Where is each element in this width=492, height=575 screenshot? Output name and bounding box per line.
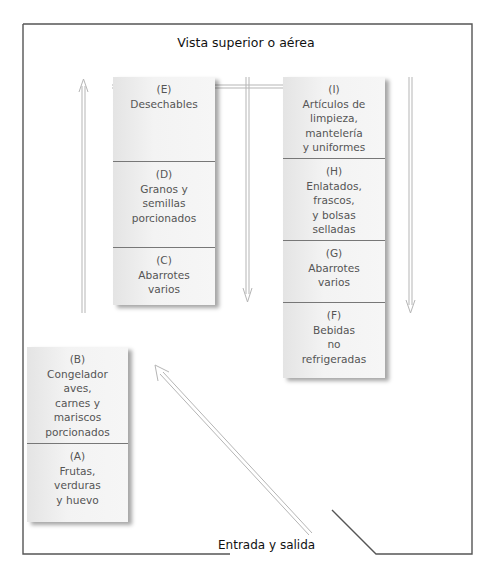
section-letter: (I) — [328, 82, 339, 97]
section-label: Abarrotes — [308, 261, 359, 276]
section-label: Granos y — [140, 182, 187, 197]
section-f: (F) Bebidas no refrigeradas — [283, 302, 385, 378]
section-label: semillas — [142, 196, 185, 211]
section-label: carnes y — [55, 396, 100, 411]
shelf-bottom-left: (B) Congelador aves, carnes y mariscos p… — [27, 347, 128, 522]
shelf-center-left: (E) Desechables (D) Granos y semillas po… — [113, 77, 215, 305]
section-label: verduras — [54, 478, 101, 493]
section-label: Congelador — [47, 367, 108, 382]
section-c: (C) Abarrotes varios — [113, 247, 215, 305]
entrance-label: Entrada y salida — [218, 538, 315, 552]
section-i: (I) Artículos de limpieza, mantelería y … — [283, 77, 385, 158]
section-label: limpieza, — [310, 111, 358, 126]
section-letter: (F) — [327, 308, 341, 323]
section-label: selladas — [312, 222, 355, 237]
section-e: (E) Desechables — [113, 77, 215, 161]
section-label: Artículos de — [303, 97, 366, 112]
section-letter: (H) — [326, 164, 342, 179]
section-letter: (G) — [326, 246, 342, 261]
section-label: frascos, — [313, 193, 354, 208]
arrow-diagonal-entrance — [155, 365, 312, 535]
section-label: Bebidas — [313, 323, 355, 338]
section-letter: (D) — [156, 167, 172, 182]
section-d: (D) Granos y semillas porcionados — [113, 161, 215, 247]
diagram-title: Vista superior o aérea — [0, 35, 492, 50]
section-label: varios — [148, 282, 180, 297]
arrow-down-middle — [243, 77, 252, 302]
section-letter: (E) — [157, 82, 172, 97]
section-label: varios — [318, 275, 350, 290]
section-label: porcionados — [132, 211, 197, 226]
section-label: y bolsas — [312, 208, 355, 223]
section-label: refrigeradas — [302, 352, 367, 367]
section-label: Desechables — [130, 97, 197, 112]
section-label: y huevo — [56, 493, 98, 508]
arrow-up-left — [79, 79, 88, 313]
section-a: (A) Frutas, verduras y huevo — [27, 443, 128, 522]
section-label: Frutas, — [60, 464, 96, 479]
section-label: mariscos — [54, 410, 101, 425]
section-letter: (A) — [70, 449, 86, 464]
shelf-center-right: (I) Artículos de limpieza, mantelería y … — [283, 77, 385, 378]
section-label: mantelería — [305, 126, 362, 141]
section-label: Enlatados, — [306, 179, 362, 194]
section-label: porcionados — [45, 425, 110, 440]
section-b: (B) Congelador aves, carnes y mariscos p… — [27, 347, 128, 443]
section-label: y uniformes — [303, 140, 366, 155]
section-letter: (C) — [156, 253, 172, 268]
section-g: (G) Abarrotes varios — [283, 240, 385, 302]
section-label: aves, — [63, 381, 91, 396]
section-letter: (B) — [70, 352, 86, 367]
section-label: Abarrotes — [138, 268, 189, 283]
arrow-down-right — [406, 77, 415, 313]
section-label: no — [327, 337, 340, 352]
section-h: (H) Enlatados, frascos, y bolsas sellada… — [283, 158, 385, 240]
